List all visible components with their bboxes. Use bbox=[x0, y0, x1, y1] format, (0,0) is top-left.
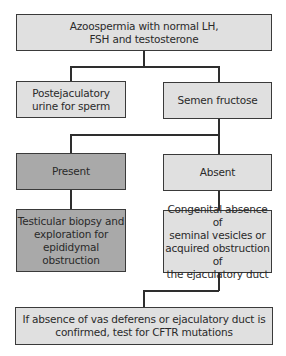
node-fructose-text: Semen fructose bbox=[178, 94, 258, 107]
node-postejaculatory: Postejaculatory urine for sperm bbox=[16, 81, 126, 118]
node-present: Present bbox=[16, 153, 126, 190]
node-postejaculatory-text: Postejaculatory urine for sperm bbox=[32, 87, 110, 113]
connector-fructose-down bbox=[218, 118, 220, 154]
node-biopsy-text: Testicular biopsy and exploration for ep… bbox=[17, 215, 125, 267]
connector-to-postejaculatory bbox=[70, 66, 72, 81]
connector-present-biopsy bbox=[70, 189, 72, 209]
node-biopsy: Testicular biopsy and exploration for ep… bbox=[16, 209, 126, 272]
node-congenital: Congenital absence of seminal vesicles o… bbox=[163, 210, 272, 273]
connector-fructose-branch bbox=[70, 134, 219, 136]
connector-congenital-cftr bbox=[143, 290, 219, 292]
node-cftr-text: If absence of vas deferens or ejaculator… bbox=[23, 313, 266, 339]
connector-to-fructose bbox=[218, 66, 220, 82]
connector-root-branch bbox=[70, 66, 219, 68]
connector-to-cftr bbox=[143, 290, 145, 307]
node-root: Azoospermia with normal LH, FSH and test… bbox=[16, 14, 272, 51]
node-present-text: Present bbox=[52, 165, 90, 178]
node-absent: Absent bbox=[163, 154, 272, 191]
connector-to-present bbox=[70, 134, 72, 153]
connector-root-down bbox=[143, 50, 145, 67]
node-cftr: If absence of vas deferens or ejaculator… bbox=[15, 307, 273, 345]
node-root-text: Azoospermia with normal LH, FSH and test… bbox=[70, 20, 219, 46]
node-congenital-text: Congenital absence of seminal vesicles o… bbox=[164, 203, 271, 281]
node-fructose: Semen fructose bbox=[163, 82, 272, 119]
node-absent-text: Absent bbox=[200, 166, 235, 179]
